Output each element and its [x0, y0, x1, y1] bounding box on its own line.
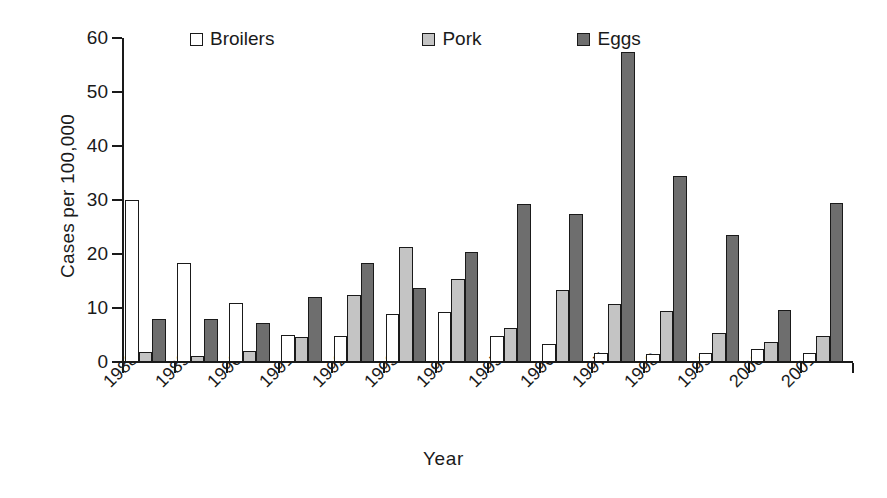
bar-eggs-1989 — [204, 319, 218, 362]
bar-pork-1992 — [347, 295, 361, 362]
bar-eggs-1991 — [308, 297, 322, 362]
bar-chart: Cases per 100,000 0102030405060 19881989… — [0, 0, 887, 498]
x-tick-end — [852, 363, 854, 373]
bar-eggs-1999 — [726, 235, 740, 362]
bar-pork-1996 — [556, 290, 570, 362]
y-tick-label-20: 20 — [0, 244, 122, 263]
y-tick-label-0: 0 — [0, 352, 122, 371]
bar-eggs-2000 — [778, 310, 792, 362]
bar-broilers-2001 — [803, 353, 817, 362]
bar-eggs-1996 — [569, 214, 583, 363]
legend-swatch-pork-icon — [422, 33, 435, 46]
bar-eggs-1993 — [413, 288, 427, 362]
bar-broilers-1989 — [177, 263, 191, 362]
bar-broilers-1997 — [594, 353, 608, 362]
bar-pork-2000 — [764, 342, 778, 362]
bar-pork-1998 — [660, 311, 674, 362]
y-tick-label-40: 40 — [0, 136, 122, 155]
y-tick-label-60: 60 — [0, 28, 122, 47]
bar-broilers-1999 — [699, 353, 713, 362]
bar-pork-2001 — [816, 336, 830, 362]
bar-broilers-1991 — [281, 335, 295, 362]
legend-item-pork: Pork — [422, 28, 481, 50]
bar-eggs-1988 — [152, 319, 166, 362]
bar-broilers-1998 — [646, 354, 660, 362]
bar-pork-1990 — [243, 351, 257, 362]
legend-label-eggs: Eggs — [597, 28, 640, 50]
legend-swatch-broilers-icon — [190, 33, 203, 46]
legend-item-broilers: Broilers — [190, 28, 274, 50]
bar-pork-1997 — [608, 304, 622, 362]
bar-eggs-1998 — [673, 176, 687, 362]
bar-eggs-1990 — [256, 323, 270, 362]
bar-pork-1991 — [295, 337, 309, 362]
bar-eggs-2001 — [830, 203, 844, 362]
y-tick-label-10: 10 — [0, 298, 122, 317]
bar-pork-1989 — [191, 356, 205, 362]
bar-broilers-1990 — [229, 303, 243, 362]
bar-pork-1995 — [504, 328, 518, 362]
y-tick-label-50: 50 — [0, 82, 122, 101]
bar-broilers-1995 — [490, 336, 504, 362]
legend-label-broilers: Broilers — [210, 28, 274, 50]
bar-broilers-1996 — [542, 344, 556, 362]
bar-broilers-1993 — [386, 314, 400, 362]
bar-eggs-1994 — [465, 252, 479, 362]
x-axis-title: Year — [0, 448, 887, 470]
chart-legend: Broilers Pork Eggs — [190, 28, 641, 50]
bar-eggs-1997 — [621, 52, 635, 362]
bar-broilers-1994 — [438, 312, 452, 362]
bar-eggs-1992 — [361, 263, 375, 362]
bar-broilers-2000 — [751, 349, 765, 363]
bar-pork-1988 — [139, 352, 153, 362]
bar-pork-1993 — [399, 247, 413, 362]
bar-pork-1999 — [712, 333, 726, 362]
bar-broilers-1988 — [125, 200, 139, 362]
bar-broilers-1992 — [334, 336, 348, 362]
legend-label-pork: Pork — [442, 28, 481, 50]
legend-swatch-eggs-icon — [577, 33, 590, 46]
y-tick-label-30: 30 — [0, 190, 122, 209]
legend-item-eggs: Eggs — [577, 28, 640, 50]
plot-area — [122, 38, 852, 362]
bar-pork-1994 — [451, 279, 465, 362]
bar-eggs-1995 — [517, 204, 531, 362]
